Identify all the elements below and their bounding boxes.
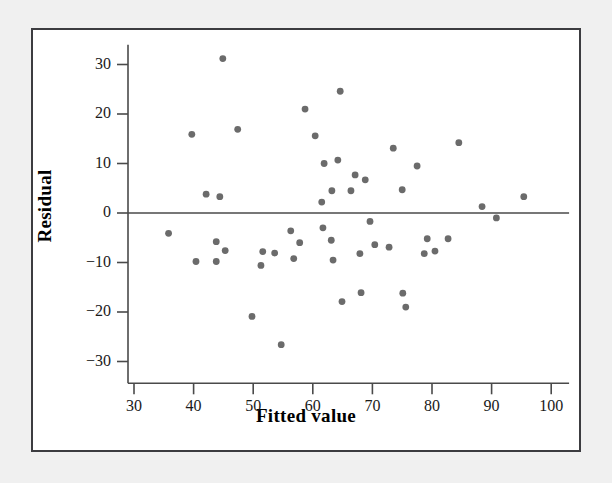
data-point bbox=[479, 203, 486, 210]
data-point bbox=[330, 257, 337, 264]
data-point bbox=[352, 171, 359, 178]
data-point bbox=[259, 248, 266, 255]
data-point bbox=[399, 186, 406, 193]
data-point bbox=[328, 237, 335, 244]
x-axis-tick-label: 50 bbox=[223, 397, 283, 415]
data-point bbox=[358, 289, 365, 296]
data-point bbox=[390, 145, 397, 152]
y-axis-tick-label: 0 bbox=[53, 203, 111, 221]
data-series-residuals bbox=[165, 55, 527, 348]
x-axis-tick-label: 90 bbox=[462, 397, 522, 415]
y-axis-tick-label: 30 bbox=[53, 55, 111, 73]
data-point bbox=[424, 235, 431, 242]
data-point bbox=[193, 258, 200, 265]
y-axis-tick-label: 10 bbox=[53, 154, 111, 172]
data-point bbox=[367, 218, 374, 225]
data-point bbox=[278, 341, 285, 348]
data-point bbox=[402, 304, 409, 311]
data-point bbox=[328, 187, 335, 194]
data-point bbox=[203, 191, 210, 198]
data-point bbox=[219, 55, 226, 62]
data-point bbox=[213, 238, 220, 245]
y-axis-tick-label: −30 bbox=[53, 352, 111, 370]
data-point bbox=[348, 187, 355, 194]
data-point bbox=[249, 313, 256, 320]
data-point bbox=[455, 139, 462, 146]
data-point bbox=[399, 290, 406, 297]
x-axis-tick-label: 70 bbox=[342, 397, 402, 415]
data-point bbox=[356, 250, 363, 257]
data-point bbox=[421, 250, 428, 257]
data-point bbox=[334, 157, 341, 164]
x-axis-tick-label: 30 bbox=[104, 397, 164, 415]
data-point bbox=[312, 132, 319, 139]
data-point bbox=[339, 298, 346, 305]
data-point bbox=[362, 176, 369, 183]
x-axis-tick-label: 100 bbox=[521, 397, 581, 415]
data-point bbox=[216, 193, 223, 200]
data-point bbox=[188, 131, 195, 138]
y-axis-tick-label: −10 bbox=[53, 253, 111, 271]
data-point bbox=[414, 163, 421, 170]
figure-canvas: Residual Fitted value 3020100−10−20−3030… bbox=[0, 0, 612, 483]
data-point bbox=[318, 199, 325, 206]
data-point bbox=[302, 106, 309, 113]
data-point bbox=[165, 230, 172, 237]
x-axis-tick-label: 40 bbox=[164, 397, 224, 415]
data-point bbox=[213, 258, 220, 265]
y-axis-tick-label: −20 bbox=[53, 302, 111, 320]
data-point bbox=[432, 248, 439, 255]
data-point bbox=[320, 224, 327, 231]
x-axis-tick-label: 60 bbox=[283, 397, 343, 415]
data-point bbox=[520, 193, 527, 200]
data-point bbox=[337, 88, 344, 95]
data-point bbox=[445, 235, 452, 242]
data-point bbox=[287, 227, 294, 234]
data-point bbox=[290, 255, 297, 262]
data-point bbox=[222, 247, 229, 254]
data-point bbox=[386, 244, 393, 251]
data-point bbox=[321, 160, 328, 167]
data-point bbox=[371, 241, 378, 248]
data-point bbox=[493, 215, 500, 222]
data-point bbox=[296, 239, 303, 246]
data-point bbox=[258, 262, 265, 269]
y-axis-tick-label: 20 bbox=[53, 104, 111, 122]
data-point bbox=[271, 250, 278, 257]
x-axis-tick-label: 80 bbox=[402, 397, 462, 415]
data-point bbox=[234, 126, 241, 133]
